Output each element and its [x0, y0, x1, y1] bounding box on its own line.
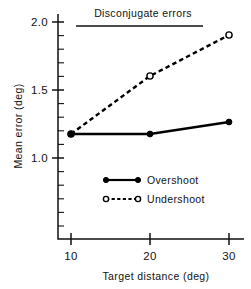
x-tick-label-30: 30	[222, 250, 235, 262]
legend-entry-overshoot: Overshoot	[103, 174, 198, 186]
legend-entry-undershoot: Undershoot	[103, 193, 204, 205]
legend-marker-open-circle-icon	[135, 196, 140, 201]
data-point-overshoot-30	[226, 119, 232, 125]
chart-legend: Overshoot Undershoot	[103, 174, 204, 205]
data-point-overshoot-20	[147, 131, 153, 137]
axis-spines	[58, 14, 244, 239]
data-point-overshoot-10	[68, 131, 74, 137]
x-axis-title: Target distance (deg)	[102, 270, 209, 282]
y-tick-label-2.0: 2.0	[31, 16, 48, 28]
disconjugate-errors-line-chart: 2.0 1.5 1.0 10 20 30 Target distance (de…	[0, 0, 251, 289]
y-axis-title: Mean error (deg)	[12, 83, 24, 168]
x-tick-label-20: 20	[143, 250, 156, 262]
legend-marker-filled-circle-icon	[103, 177, 108, 182]
legend-label-undershoot: Undershoot	[147, 193, 205, 205]
chart-figure: 2.0 1.5 1.0 10 20 30 Target distance (de…	[0, 0, 251, 289]
y-tick-label-1.5: 1.5	[31, 84, 48, 96]
data-point-undershoot-20	[147, 73, 153, 79]
legend-marker-open-circle-icon	[103, 196, 108, 201]
legend-marker-filled-circle-icon	[135, 177, 140, 182]
x-tick-label-10: 10	[64, 250, 77, 262]
legend-label-overshoot: Overshoot	[147, 174, 199, 186]
y-tick-label-1.0: 1.0	[31, 152, 48, 164]
chart-title: Disconjugate errors	[94, 7, 192, 19]
data-point-undershoot-30	[226, 32, 232, 38]
series-line-undershoot	[71, 35, 229, 134]
